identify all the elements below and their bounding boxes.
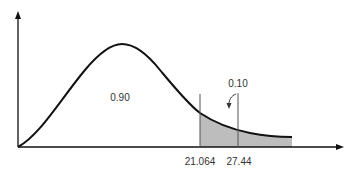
tick-critical-value: 21.064 (185, 156, 216, 167)
chart-canvas: 0.90 0.10 21.064 27.44 (0, 0, 355, 173)
area-body-label: 0.90 (110, 92, 130, 103)
y-axis-arrow-icon (15, 11, 21, 19)
curved-arrow-icon (229, 94, 236, 104)
density-curve (18, 44, 292, 147)
x-axis-arrow-icon (336, 144, 344, 150)
area-tail-label: 0.10 (228, 78, 248, 89)
tick-test-statistic: 27.44 (226, 156, 251, 167)
curved-arrow-head-icon (227, 103, 232, 109)
shaded-tail-region (200, 113, 292, 147)
